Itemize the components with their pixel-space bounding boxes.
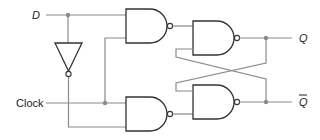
d-junction-dot <box>66 13 70 17</box>
clock-input-label: Clock <box>16 97 44 109</box>
qbar-output-label: Q <box>299 96 308 108</box>
d-input-label: D <box>32 9 40 21</box>
nand-top-left <box>126 9 173 43</box>
q-output-label: Q <box>299 32 308 44</box>
clock-junction-dot <box>103 101 107 105</box>
nand-top-right <box>193 21 240 55</box>
nand-bottom-left <box>126 97 173 131</box>
gated-d-latch-diagram: D Clock Q Q <box>0 0 320 140</box>
nand-bottom-right <box>193 85 240 119</box>
inverter-gate <box>55 43 82 77</box>
inverter-output-wire <box>69 77 127 127</box>
